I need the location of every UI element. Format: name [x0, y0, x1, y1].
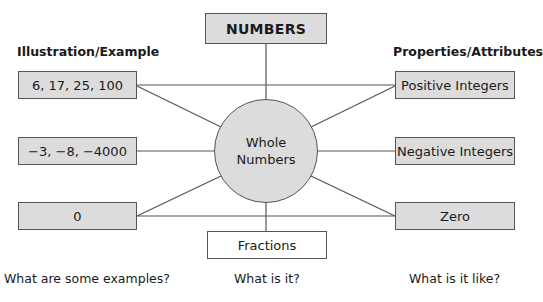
example-box-negative: −3, −8, −4000	[18, 137, 137, 165]
whole-numbers-circle: Whole Numbers	[214, 99, 318, 203]
example-box-positive: 6, 17, 25, 100	[18, 71, 137, 99]
property-box-negative-integers: Negative Integers	[395, 137, 515, 165]
examples-heading: Illustration/Example	[17, 44, 159, 59]
example-box-zero: 0	[18, 202, 137, 230]
property-box-zero: Zero	[395, 202, 515, 230]
numbers-box: NUMBERS	[205, 13, 327, 44]
question-examples: What are some examples?	[4, 271, 170, 286]
question-what-is-it-like: What is it like?	[409, 271, 500, 286]
question-what-is-it: What is it?	[234, 271, 300, 286]
center-label-line2: Numbers	[237, 151, 296, 168]
fractions-box: Fractions	[207, 231, 327, 259]
properties-heading: Properties/Attributes	[393, 44, 543, 59]
center-label-line1: Whole	[246, 134, 287, 151]
property-box-positive-integers: Positive Integers	[395, 71, 515, 99]
